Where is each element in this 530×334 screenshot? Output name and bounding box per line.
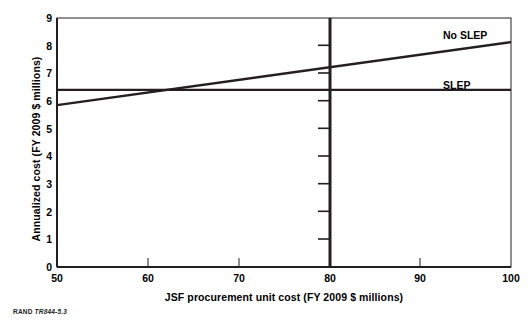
- plot-area: [0, 0, 530, 334]
- figure-credit: RAND TR844-5.3: [13, 308, 67, 315]
- x-axis-ticks: [148, 258, 420, 267]
- credit-org: RAND: [13, 308, 33, 315]
- credit-id: TR844-5.3: [35, 308, 68, 315]
- plot-frame: [57, 18, 511, 267]
- chart-figure: Annualized cost (FY 2009 $ millions) JSF…: [0, 0, 530, 334]
- series-line-no-slep: [57, 42, 511, 105]
- reference-line-ticks: [318, 45, 330, 239]
